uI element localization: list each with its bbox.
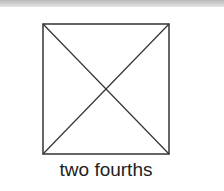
fraction-caption: two fourths <box>0 159 212 181</box>
top-band <box>0 0 224 7</box>
square-divided-diagonals <box>42 23 170 155</box>
